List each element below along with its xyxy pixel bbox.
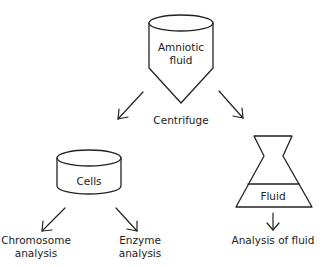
fluid-flask: Fluid xyxy=(236,136,312,207)
cells-cylinder: Cells xyxy=(57,150,121,194)
fluid-label: Fluid xyxy=(260,190,285,202)
centrifuge-label: Centrifuge xyxy=(153,114,208,126)
chromosome-label-line1: Chromosome xyxy=(1,234,71,246)
arrow-to-analysis-of-fluid xyxy=(267,213,279,230)
enzyme-label-line1: Enzyme xyxy=(119,234,161,246)
amniotic-label-line1: Amniotic xyxy=(158,41,204,53)
chromosome-label-line2: analysis xyxy=(15,247,58,259)
cells-top-ellipse xyxy=(57,150,121,166)
tube-top-ellipse xyxy=(149,15,213,31)
analysis-of-fluid-label: Analysis of fluid xyxy=(232,234,315,246)
arrow-to-chromosome xyxy=(42,208,65,231)
cells-label: Cells xyxy=(76,175,101,187)
amniotic-label-line2: fluid xyxy=(170,54,193,66)
arrow-to-cells xyxy=(118,92,143,119)
arrow-to-fluid xyxy=(219,91,243,118)
diagram-canvas: Amniotic fluid Centrifuge Cells Chromoso… xyxy=(0,0,322,267)
amniotic-fluid-tube: Amniotic fluid xyxy=(149,15,213,103)
arrow-to-enzyme xyxy=(116,208,137,231)
enzyme-label-line2: analysis xyxy=(119,247,162,259)
